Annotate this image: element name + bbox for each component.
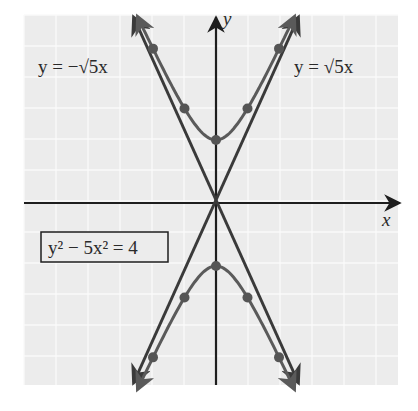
data-point — [243, 293, 253, 303]
data-point — [180, 104, 190, 114]
y-axis-label: y — [221, 8, 232, 29]
data-point — [211, 135, 221, 145]
equation-label: y² − 5x² = 4 — [48, 237, 138, 258]
data-point — [211, 261, 221, 271]
data-point — [148, 44, 158, 54]
negative-asymptote-label: y = −√5x — [38, 56, 108, 77]
data-point — [148, 352, 158, 362]
hyperbola-plot: y x y = −√5x y = √5x y² − 5x² = 4 — [0, 0, 418, 411]
data-point — [274, 44, 284, 54]
data-point — [180, 293, 190, 303]
x-axis-label: x — [381, 209, 391, 230]
data-point — [243, 104, 253, 114]
positive-asymptote-label: y = √5x — [294, 56, 354, 77]
data-point — [274, 352, 284, 362]
